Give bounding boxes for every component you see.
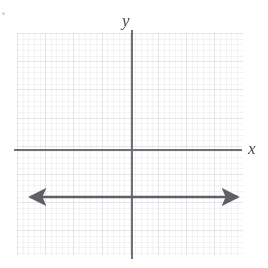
x-axis-line xyxy=(14,149,242,151)
y-axis-line xyxy=(131,30,133,259)
y-axis-label: y xyxy=(122,12,130,29)
plotted-horizontal-line xyxy=(22,190,246,204)
scan-speck xyxy=(2,12,5,15)
x-axis-label: x xyxy=(248,140,256,157)
coordinate-grid xyxy=(17,33,243,255)
graph-figure: y x xyxy=(0,0,268,268)
